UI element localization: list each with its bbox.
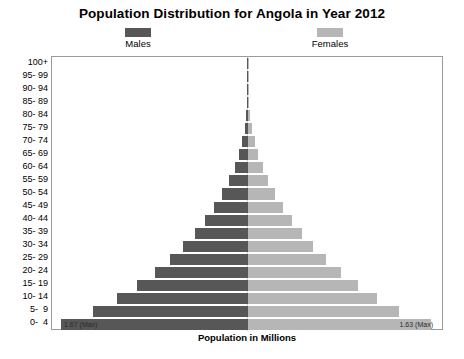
bar-female [248,175,268,186]
pyramid-row [52,227,444,240]
bar-male [117,293,248,304]
pyramid-row [52,253,444,266]
pyramid-row [52,83,444,96]
pyramid-row [52,240,444,253]
y-axis-tick-label: 70- 74 [2,135,48,145]
y-axis-tick-label: 30- 34 [2,239,48,249]
pyramid-row [52,266,444,279]
y-axis-tick-label: 5- 9 [2,304,48,314]
bar-female [248,71,249,82]
bar-male [137,280,248,291]
bar-female [248,123,252,134]
bar-female [248,58,249,69]
y-axis-tick-label: 15- 19 [2,278,48,288]
pyramid-row [52,305,444,318]
y-axis-tick-label: 100+ [2,57,48,67]
pyramid-row [52,135,444,148]
chart-title: Population Distribution for Angola in Ye… [0,6,464,21]
bar-female [248,280,358,291]
pyramid-row [52,57,444,70]
y-axis-tick-label: 50- 54 [2,187,48,197]
y-axis-labels: 0- 45- 910- 1415- 1920- 2425- 2930- 3435… [0,56,48,330]
bar-female [248,241,313,252]
bar-male [195,228,248,239]
pyramid-row [52,214,444,227]
bar-female [248,84,249,95]
chart-legend: Males Females [0,28,464,50]
y-axis-tick-label: 60- 64 [2,161,48,171]
pyramid-row [52,109,444,122]
legend-label-females: Females [300,38,360,49]
male-max-annotation: 1.67 (Max) [64,321,97,328]
female-max-annotation: 1.63 (Max) [400,321,433,328]
pyramid-plot-area: 1.67 (Max) 1.63 (Max) [51,56,443,330]
bar-female [248,110,250,121]
bar-male [205,215,248,226]
pyramid-row [52,187,444,200]
pyramid-row [52,318,444,331]
y-axis-tick-label: 95- 99 [2,70,48,80]
bar-male [222,188,248,199]
legend-swatch-females [317,28,343,37]
bar-male [239,149,248,160]
bar-female [248,254,326,265]
bar-male [229,175,248,186]
pyramid-row [52,148,444,161]
y-axis-tick-label: 75- 79 [2,122,48,132]
bar-female [248,97,249,108]
y-axis-tick-label: 25- 29 [2,252,48,262]
legend-swatch-males [125,28,151,37]
bar-male [183,241,248,252]
legend-item-females: Females [300,28,360,49]
y-axis-tick-label: 35- 39 [2,226,48,236]
bar-female [248,293,377,304]
bar-female [248,149,258,160]
pyramid-row [52,70,444,83]
y-axis-tick-label: 85- 89 [2,96,48,106]
y-axis-tick-label: 40- 44 [2,213,48,223]
bar-female [248,228,302,239]
y-axis-tick-label: 90- 94 [2,83,48,93]
y-axis-tick-label: 55- 59 [2,174,48,184]
bar-male [235,162,248,173]
bar-female [248,136,255,147]
legend-item-males: Males [108,28,168,49]
pyramid-row [52,174,444,187]
y-axis-tick-label: 45- 49 [2,200,48,210]
y-axis-tick-label: 20- 24 [2,265,48,275]
y-axis-tick-label: 10- 14 [2,291,48,301]
pyramid-row [52,201,444,214]
bar-female [248,215,292,226]
pyramid-row [52,122,444,135]
bar-female [248,202,283,213]
bar-female [248,267,341,278]
bar-male [214,202,248,213]
bar-female [248,188,275,199]
bar-male [93,306,248,317]
pyramid-row [52,292,444,305]
y-axis-tick-label: 80- 84 [2,109,48,119]
x-axis-title: Population in Millions [51,332,443,343]
bar-female [248,162,263,173]
pyramid-row [52,279,444,292]
y-axis-tick-label: 0- 4 [2,317,48,327]
pyramid-bars [52,57,444,331]
pyramid-row [52,161,444,174]
y-axis-tick-label: 65- 69 [2,148,48,158]
bar-female [248,306,399,317]
pyramid-row [52,96,444,109]
bar-male [155,267,248,278]
legend-label-males: Males [108,38,168,49]
bar-male [170,254,248,265]
